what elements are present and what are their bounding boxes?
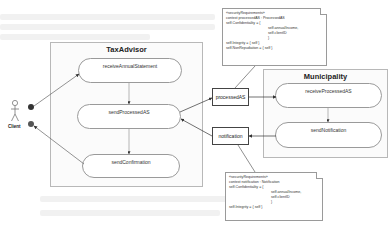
diagram-edges — [0, 0, 390, 232]
actor-client-icon — [11, 100, 19, 121]
actor-label: Client — [8, 124, 21, 129]
port-outgoing[interactable] — [28, 121, 34, 127]
port-incoming[interactable] — [28, 104, 34, 110]
